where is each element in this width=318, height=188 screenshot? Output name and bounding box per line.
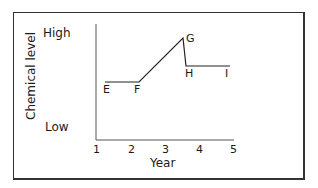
x-tick-5: 5 <box>230 144 237 156</box>
y-axis-title: Chemical level <box>24 34 38 120</box>
y-low-label: Low <box>45 121 69 133</box>
chemical-level-line <box>105 38 230 82</box>
x-tick-1: 1 <box>93 144 100 156</box>
point-label-i: I <box>225 68 228 80</box>
point-label-e: E <box>103 84 110 96</box>
x-tick-4: 4 <box>196 144 203 156</box>
point-label-f: F <box>134 84 140 96</box>
point-label-h: H <box>185 68 193 80</box>
x-axis-title: Year <box>150 157 175 169</box>
x-tick-3: 3 <box>162 144 169 156</box>
point-label-g: G <box>186 33 195 45</box>
y-high-label: High <box>43 27 71 39</box>
x-tick-2: 2 <box>128 144 135 156</box>
